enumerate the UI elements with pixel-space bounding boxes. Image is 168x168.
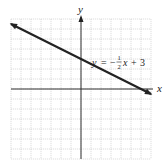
y-axis-arrow-icon (79, 15, 84, 22)
eq-fraction-denominator: 2 (118, 63, 121, 70)
eq-fraction-numerator: 1 (118, 54, 121, 61)
eq-minus: − (110, 57, 116, 68)
eq-x: x (122, 57, 128, 68)
y-axis-label: y (77, 3, 83, 15)
eq-y: y (91, 57, 97, 68)
x-axis-label: x (156, 82, 162, 94)
coordinate-plane: x y y = − 1 2 x + 3 (0, 0, 168, 168)
eq-plus: + (131, 57, 137, 68)
line-arrowhead-left-icon (10, 23, 18, 29)
eq-equals: = (101, 57, 107, 68)
eq-constant: 3 (140, 57, 145, 68)
